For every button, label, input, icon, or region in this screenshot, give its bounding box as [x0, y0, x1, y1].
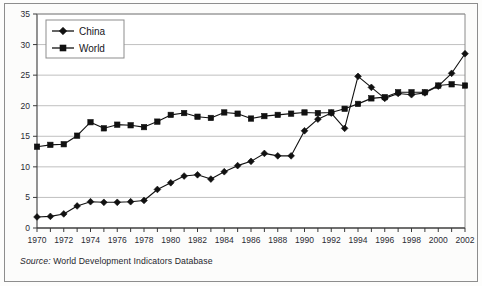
- x-tick-label: 1974: [81, 235, 100, 245]
- y-axis-ticks: 05101520253035: [21, 9, 37, 233]
- x-tick-label: 1970: [28, 235, 47, 245]
- x-tick-label: 2002: [456, 235, 475, 245]
- legend: ChinaWorld: [46, 20, 124, 58]
- x-tick-label: 1994: [349, 235, 368, 245]
- y-tick-label: 20: [21, 101, 31, 111]
- y-tick-label: 0: [25, 223, 30, 233]
- x-tick-label: 1992: [322, 235, 341, 245]
- x-tick-label: 1982: [188, 235, 207, 245]
- x-tick-label: 1972: [54, 235, 73, 245]
- legend-label-china: China: [79, 26, 106, 37]
- y-tick-label: 35: [21, 9, 31, 19]
- x-tick-label: 1990: [295, 235, 314, 245]
- legend-label-world: World: [79, 43, 105, 54]
- x-tick-label: 1984: [215, 235, 234, 245]
- y-tick-label: 15: [21, 131, 31, 141]
- x-tick-label: 1988: [268, 235, 287, 245]
- x-tick-label: 1986: [242, 235, 261, 245]
- line-chart: 0510152025303519701972197419761978198019…: [0, 0, 482, 286]
- y-tick-label: 25: [21, 70, 31, 80]
- x-tick-label: 1978: [135, 235, 154, 245]
- figure-container: 0510152025303519701972197419761978198019…: [0, 0, 482, 286]
- y-tick-label: 5: [25, 192, 30, 202]
- source-label: Source:: [20, 256, 51, 266]
- x-tick-label: 1996: [375, 235, 394, 245]
- x-axis-ticks: 1970197219741976197819801982198419861988…: [28, 228, 475, 245]
- y-tick-label: 30: [21, 40, 31, 50]
- x-tick-label: 2000: [429, 235, 448, 245]
- x-tick-label: 1980: [161, 235, 180, 245]
- x-tick-label: 1976: [108, 235, 127, 245]
- chart-svg: 0510152025303519701972197419761978198019…: [0, 0, 482, 286]
- source-text: World Development Indicators Database: [53, 256, 213, 266]
- source-note: Source: World Development Indicators Dat…: [20, 256, 213, 266]
- x-tick-label: 1998: [402, 235, 421, 245]
- y-tick-label: 10: [21, 162, 31, 172]
